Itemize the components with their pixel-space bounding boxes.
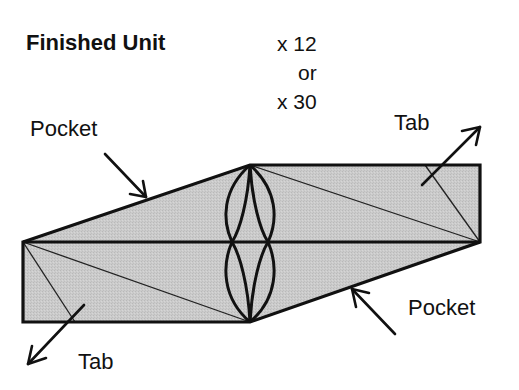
finished-unit-diagram [0,0,519,390]
arrow-up-left-icon [352,289,395,334]
count-line-3: x 30 [277,87,317,116]
tab-label-bottom: Tab [78,349,113,375]
tab-label-top: Tab [394,110,429,136]
pocket-label-bottom: Pocket [408,295,475,321]
unit-count: x 12 or x 30 [277,29,317,116]
pocket-label-top: Pocket [30,116,97,142]
count-line-2: or [277,58,317,87]
diagram-title: Finished Unit [26,30,165,56]
arrow-down-right-icon [105,154,146,197]
count-line-1: x 12 [277,29,317,58]
